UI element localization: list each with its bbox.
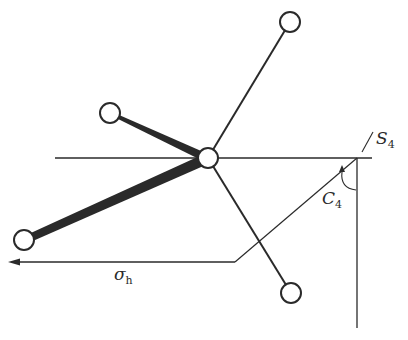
label-c4-sub: 4 bbox=[335, 198, 342, 211]
node-bottom bbox=[281, 283, 301, 303]
s4-leader bbox=[362, 132, 373, 152]
spoke-top bbox=[208, 22, 290, 158]
node-center bbox=[198, 148, 218, 168]
label-c4-main: C bbox=[322, 188, 335, 208]
label-c4: C4 bbox=[322, 188, 342, 208]
spoke-upper-left bbox=[110, 111, 208, 162]
label-s4-main: S bbox=[376, 128, 388, 148]
node-lower-left bbox=[14, 230, 34, 250]
angle-arc bbox=[342, 172, 356, 190]
node-top bbox=[280, 12, 300, 32]
label-s4: S4 bbox=[376, 128, 395, 148]
spoke-lower-left bbox=[22, 154, 208, 244]
label-s4-sub: 4 bbox=[388, 138, 395, 151]
diagram-canvas bbox=[0, 0, 408, 340]
arrowhead-icon bbox=[8, 259, 20, 266]
label-sigma-h: σh bbox=[114, 264, 133, 284]
label-sigma-sub: h bbox=[126, 274, 133, 287]
node-upper-left bbox=[100, 103, 120, 123]
label-sigma-main: σ bbox=[114, 264, 126, 284]
